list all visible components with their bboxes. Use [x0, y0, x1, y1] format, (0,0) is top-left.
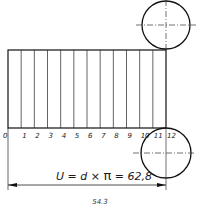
figure-caption: 54.3 — [0, 198, 200, 206]
division-label: 0 — [3, 132, 8, 140]
division-label: 8 — [114, 132, 119, 140]
cylinder-development-drawing: 0123456789101112 U = d × π = 62,8 — [0, 0, 200, 214]
division-label: 11 — [154, 132, 163, 140]
division-label: 5 — [75, 132, 80, 140]
division-label: 4 — [62, 132, 66, 140]
division-label: 6 — [88, 132, 93, 140]
dimension-label: U = d × π = 62,8 — [56, 168, 152, 183]
division-label: 9 — [128, 132, 133, 140]
division-label: 12 — [167, 132, 176, 140]
division-label: 7 — [101, 132, 106, 140]
division-label: 2 — [35, 132, 40, 140]
development-rectangle — [8, 50, 166, 128]
division-label: 1 — [22, 132, 26, 140]
top-circle — [136, 0, 196, 50]
division-label: 3 — [49, 132, 53, 140]
